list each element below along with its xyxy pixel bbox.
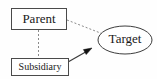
- edge-subsidiary-to-target: [68, 52, 87, 63]
- edge-parent-to-target: [67, 20, 103, 34]
- diagram-svg: Target (upper-left of ellipse) --> Targe…: [0, 0, 157, 79]
- arrowhead-icon: [83, 48, 92, 55]
- node-target[interactable]: Target: [98, 26, 152, 54]
- node-parent[interactable]: Parent: [12, 9, 67, 30]
- node-subsidiary-label: Subsidiary: [19, 61, 62, 72]
- node-target-label: Target: [109, 31, 142, 46]
- node-parent-label: Parent: [22, 11, 56, 26]
- diagram-canvas: Target (upper-left of ellipse) --> Targe…: [0, 0, 157, 79]
- node-subsidiary[interactable]: Subsidiary: [12, 59, 69, 76]
